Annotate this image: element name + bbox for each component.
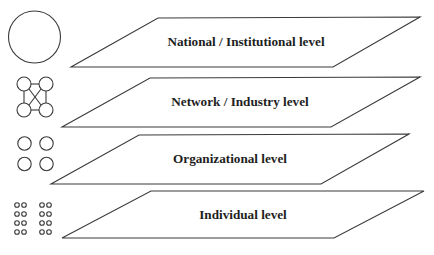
levels-diagram: National / Institutional level Network /…: [0, 0, 434, 255]
many-small-circles-icon: [15, 203, 52, 235]
level-organizational: Organizational level: [18, 134, 409, 184]
level-label: Network / Industry level: [171, 94, 309, 109]
level-label: National / Institutional level: [167, 34, 324, 49]
level-label: Organizational level: [173, 151, 287, 166]
level-label: Individual level: [199, 207, 287, 222]
connected-circles-network-icon: [17, 77, 53, 117]
level-individual: Individual level: [15, 191, 424, 238]
level-network-industry: Network / Industry level: [17, 77, 420, 127]
four-circles-icon: [18, 137, 53, 171]
level-national-institutional: National / Institutional level: [9, 11, 421, 67]
single-large-circle-icon: [9, 11, 61, 63]
